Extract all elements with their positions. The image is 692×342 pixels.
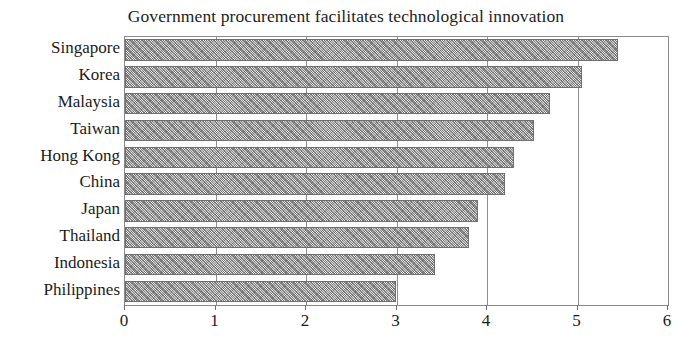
x-tick-label-6: 6: [647, 311, 687, 331]
y-axis-label-thailand: Thailand: [0, 226, 120, 246]
bar-china: [125, 173, 505, 195]
y-axis-label-singapore: Singapore: [0, 38, 120, 58]
x-tick-2: [305, 305, 306, 310]
bar-indonesia: [125, 254, 435, 276]
y-axis-label-japan: Japan: [0, 199, 120, 219]
bar-malaysia: [125, 93, 550, 115]
y-axis-category-labels: SingaporeKoreaMalaysiaTaiwanHong KongChi…: [0, 36, 120, 304]
bar-row: [125, 117, 668, 144]
x-tick-label-1: 1: [195, 311, 235, 331]
x-tick-label-2: 2: [285, 311, 325, 331]
bar-chart-figure: Government procurement facilitates techn…: [0, 0, 692, 342]
bar-taiwan: [125, 120, 534, 142]
chart-title: Government procurement facilitates techn…: [0, 6, 692, 27]
y-axis-label-taiwan: Taiwan: [0, 119, 120, 139]
y-axis-label-hong-kong: Hong Kong: [0, 146, 120, 166]
bar-philippines: [125, 281, 396, 303]
bar-thailand: [125, 227, 469, 249]
bar-row: [125, 198, 668, 225]
x-tick-label-0: 0: [104, 311, 144, 331]
x-tick-label-5: 5: [557, 311, 597, 331]
y-axis-label-malaysia: Malaysia: [0, 92, 120, 112]
y-axis-label-indonesia: Indonesia: [0, 253, 120, 273]
x-tick-0: [124, 305, 125, 310]
y-axis-label-philippines: Philippines: [0, 280, 120, 300]
x-axis: 0123456: [124, 305, 667, 337]
x-tick-label-4: 4: [466, 311, 506, 331]
bar-row: [125, 278, 668, 305]
bar-singapore: [125, 39, 618, 61]
bar-row: [125, 225, 668, 252]
bar-hong-kong: [125, 147, 514, 169]
x-tick-6: [667, 305, 668, 310]
bar-row: [125, 37, 668, 64]
y-axis-label-korea: Korea: [0, 65, 120, 85]
bar-row: [125, 64, 668, 91]
bar-korea: [125, 66, 582, 88]
bar-row: [125, 144, 668, 171]
x-tick-1: [215, 305, 216, 310]
x-tick-label-3: 3: [376, 311, 416, 331]
bar-row: [125, 251, 668, 278]
bar-row: [125, 91, 668, 118]
x-tick-3: [396, 305, 397, 310]
y-axis-label-china: China: [0, 172, 120, 192]
bar-row: [125, 171, 668, 198]
x-tick-5: [577, 305, 578, 310]
bar-japan: [125, 200, 478, 222]
plot-area: [124, 36, 669, 306]
x-tick-4: [486, 305, 487, 310]
